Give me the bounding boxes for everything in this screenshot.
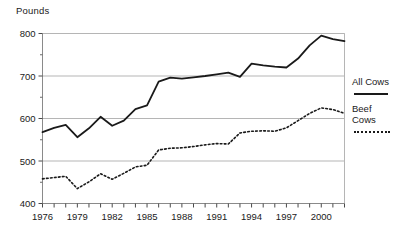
svg-text:600: 600	[20, 113, 36, 124]
x-axis-tick-labels: 197619791982198519881991199419972000	[32, 211, 332, 222]
legend-entry-all-cows: All Cows	[352, 76, 404, 97]
svg-text:1997: 1997	[276, 211, 297, 222]
gridlines	[43, 34, 345, 162]
data-series-group	[43, 36, 345, 189]
svg-text:1976: 1976	[32, 211, 53, 222]
legend-label-all-cows: All Cows	[352, 76, 404, 87]
plot-area: 400500600700800 197619791982198519881991…	[0, 0, 404, 235]
svg-text:1982: 1982	[102, 211, 123, 222]
series-line-all-cows	[43, 36, 345, 138]
svg-text:500: 500	[20, 156, 36, 167]
svg-text:1994: 1994	[241, 211, 262, 222]
svg-text:400: 400	[20, 198, 36, 209]
legend-line-sample-dotted	[352, 128, 392, 135]
y-axis-tick-labels: 400500600700800	[20, 28, 36, 209]
svg-text:2000: 2000	[311, 211, 332, 222]
x-axis-ticks	[43, 204, 345, 208]
series-line-beef-cows	[43, 108, 345, 189]
legend-entry-beef-cows: Beef Cows	[352, 103, 404, 135]
chart-legend: All Cows Beef Cows	[352, 76, 404, 141]
svg-text:800: 800	[20, 28, 36, 39]
legend-label-beef-cows: Beef Cows	[352, 103, 404, 125]
svg-text:1985: 1985	[136, 211, 157, 222]
line-chart: Pounds 400500600700800 19761979198219851…	[0, 0, 404, 235]
legend-line-sample-solid	[352, 90, 392, 97]
svg-text:1991: 1991	[206, 211, 227, 222]
y-axis-ticks	[39, 34, 43, 204]
svg-text:1988: 1988	[171, 211, 192, 222]
svg-text:1979: 1979	[67, 211, 88, 222]
svg-text:700: 700	[20, 71, 36, 82]
